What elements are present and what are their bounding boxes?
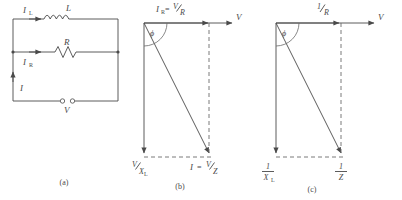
terminal-right	[70, 99, 74, 103]
caption-a: (a)	[60, 178, 69, 187]
label-i-den-b: Z	[213, 167, 218, 176]
label-resistor: R	[63, 37, 70, 47]
figure-page: I L L I R R I V (a) V ϕ	[0, 0, 402, 200]
angle-label-c: ϕ	[282, 29, 286, 38]
label-i-eq-b: =	[197, 163, 202, 172]
angle-arc-c	[276, 23, 299, 46]
label-invz-den-c: Z	[339, 173, 344, 182]
label-ir-main-b: I	[155, 4, 160, 14]
label-il-den-sub-b: L	[144, 171, 148, 177]
junction-left	[11, 50, 14, 53]
label-total-current: I	[19, 83, 24, 93]
label-invxl-num-c: 1	[266, 162, 270, 171]
terminal-left	[60, 99, 64, 103]
phasor-resultant-b	[144, 23, 209, 153]
caption-b: (b)	[175, 182, 185, 191]
label-il-b: I = V X L	[128, 160, 148, 177]
label-invr-c: 1 R	[317, 2, 329, 17]
label-invr-num-c: 1	[317, 2, 321, 11]
resistor-zigzag	[55, 47, 76, 58]
label-inductor-current: I	[22, 5, 27, 15]
label-invz-num-c: 1	[339, 162, 343, 171]
label-invxl-den-c: X	[263, 173, 270, 182]
label-invxl-den-sub-c: L	[271, 177, 275, 183]
figure-a-circuit: I L L I R R I V (a)	[0, 0, 128, 200]
label-i-b: I = V Z	[189, 160, 218, 176]
label-resistor-current: I	[22, 57, 27, 67]
label-invxl-c: 1 X L	[262, 162, 275, 183]
label-inductor-current-sub: L	[29, 10, 33, 16]
angle-label-b: ϕ	[150, 29, 154, 38]
angle-arc-b	[144, 23, 167, 46]
label-invz-c: 1 Z	[335, 162, 347, 182]
label-inductor: L	[65, 3, 71, 13]
junction-right	[116, 50, 119, 53]
label-i-main-b: I	[189, 162, 194, 172]
figure-c-phasor: V ϕ 1 R 1 X L 1 Z (c	[258, 0, 402, 200]
axis-v-label-c: V	[378, 12, 385, 22]
axis-v-label-b: V	[236, 12, 243, 22]
inductor-coil	[44, 15, 69, 19]
label-ir-den-b: R	[179, 8, 185, 17]
label-resistor-current-sub: R	[29, 62, 33, 68]
phasor-admittance-c	[276, 23, 341, 153]
figure-b-phasor: V ϕ I R = V R I = V X L	[128, 0, 258, 200]
label-ir-b: I R = V R	[155, 2, 185, 17]
label-invr-den-c: R	[323, 8, 329, 17]
caption-c: (c)	[308, 185, 317, 194]
label-source-voltage: V	[64, 105, 71, 115]
label-ir-eq-b: =	[165, 5, 170, 14]
